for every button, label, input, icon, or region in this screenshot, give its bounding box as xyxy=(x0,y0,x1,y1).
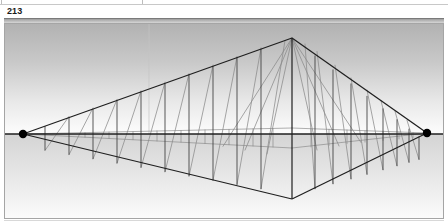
wireframe-drawing xyxy=(5,24,443,218)
screenshot-root: 213 xyxy=(0,0,448,224)
right-support-node[interactable] xyxy=(423,129,431,137)
window-top-frame xyxy=(0,0,448,5)
window-top-frame-segment xyxy=(1,0,143,4)
page-bottom-rule xyxy=(4,220,444,221)
perspective-viewport[interactable] xyxy=(4,23,444,219)
page-number-label: 213 xyxy=(7,5,22,17)
left-support-node[interactable] xyxy=(19,130,27,138)
ground-plane xyxy=(5,134,443,218)
